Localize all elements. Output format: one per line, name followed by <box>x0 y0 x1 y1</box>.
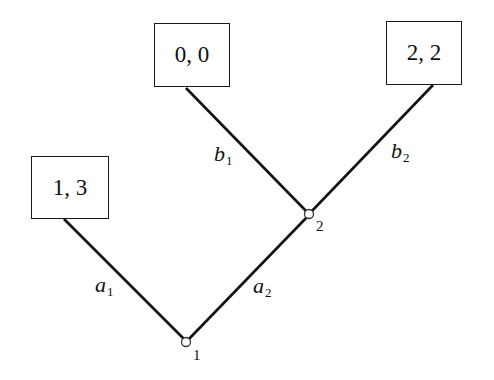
edge-a2 <box>187 215 309 341</box>
action-subscript: 2 <box>403 150 410 165</box>
action-label-b2: b2 <box>391 140 410 164</box>
node-label-1: 1 <box>193 348 201 363</box>
decision-node-1 <box>182 338 191 347</box>
action-label-a2: a2 <box>253 275 272 299</box>
payoff-box-b1: 0, 0 <box>154 23 230 87</box>
action-letter: a <box>95 272 106 297</box>
edge-b1 <box>186 88 308 213</box>
action-subscript: 1 <box>226 153 233 168</box>
edge-a1 <box>64 219 186 341</box>
decision-node-2 <box>305 210 314 219</box>
payoff-box-a1: 1, 3 <box>31 156 109 219</box>
edge-b2 <box>310 85 433 213</box>
action-subscript: 2 <box>265 285 272 300</box>
action-letter: a <box>253 273 264 298</box>
action-label-a1: a1 <box>95 274 114 298</box>
node-label-2: 2 <box>316 219 324 234</box>
action-label-b1: b1 <box>214 143 233 167</box>
payoff-box-b2: 2, 2 <box>386 21 462 85</box>
action-letter: b <box>214 141 225 166</box>
action-letter: b <box>391 138 402 163</box>
action-subscript: 1 <box>107 284 114 299</box>
